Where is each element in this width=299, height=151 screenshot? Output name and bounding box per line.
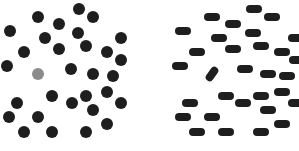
distractor-bar <box>274 88 290 96</box>
distractor-bar <box>218 92 234 100</box>
distractor-bar <box>189 128 205 136</box>
distractor-bar <box>204 113 220 121</box>
distractor-bar <box>260 70 276 78</box>
distractor-bar <box>204 13 220 21</box>
distractor-bar <box>175 27 191 35</box>
distractor-bar <box>253 92 269 100</box>
distractor-bar <box>235 99 251 107</box>
distractor-bar <box>246 5 262 13</box>
distractor-bar <box>189 48 205 56</box>
distractor-bar <box>264 13 280 21</box>
distractor-bar <box>225 45 241 53</box>
distractor-bar <box>245 29 261 37</box>
distractor-bar <box>237 65 253 73</box>
distractor-bar <box>253 128 269 136</box>
distractor-bar <box>175 113 191 121</box>
distractor-bar <box>274 48 290 56</box>
distractor-bar <box>288 34 299 42</box>
distractor-bar <box>253 42 269 50</box>
distractor-bar <box>218 128 234 136</box>
target-bar <box>204 65 220 83</box>
distractor-bar <box>289 56 299 64</box>
distractor-bar <box>274 120 290 128</box>
orientation-popout-panel <box>0 0 299 151</box>
distractor-bar <box>211 34 227 42</box>
distractor-bar <box>225 20 241 28</box>
distractor-bar <box>279 72 295 80</box>
distractor-bar <box>288 99 299 107</box>
distractor-bar <box>172 62 188 70</box>
distractor-bar <box>260 106 276 114</box>
distractor-bar <box>182 99 198 107</box>
